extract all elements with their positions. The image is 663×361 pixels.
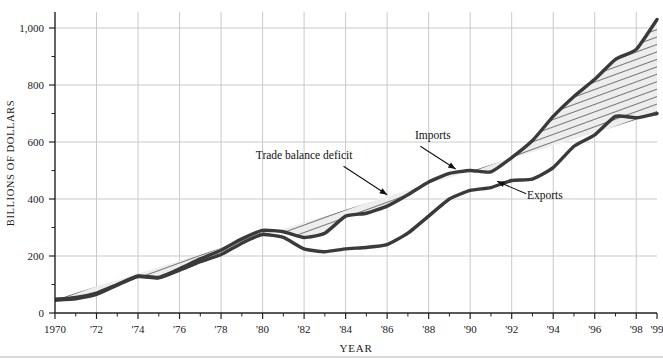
- x-tick-label: '72: [90, 323, 103, 335]
- y-tick-label: 400: [28, 193, 45, 205]
- x-tick-label: '92: [505, 323, 518, 335]
- y-tick-label: 800: [28, 79, 45, 91]
- x-tick-label: '82: [298, 323, 311, 335]
- x-tick-label: '96: [588, 323, 601, 335]
- x-tick-label: '84: [339, 323, 352, 335]
- x-tick-label: '78: [215, 323, 228, 335]
- x-tick-label: 1970: [44, 323, 67, 335]
- y-axis-title: BILLIONS OF DOLLARS: [5, 100, 16, 226]
- x-tick-label: '80: [256, 323, 269, 335]
- x-tick-label: '90: [464, 323, 477, 335]
- imports-annotation: Imports: [415, 129, 451, 142]
- y-tick-label: 1,000: [19, 22, 44, 34]
- chart-canvas: 02004006008001,000 1970'72'74'76'78'80'8…: [0, 0, 663, 361]
- trade-balance-chart: 02004006008001,000 1970'72'74'76'78'80'8…: [0, 0, 663, 361]
- x-tick-label: '94: [547, 323, 560, 335]
- trade-balance-annotation: Trade balance deficit: [256, 149, 353, 161]
- x-tick-label: '76: [173, 323, 186, 335]
- y-tick-label: 600: [28, 136, 45, 148]
- y-tick-label: 200: [28, 250, 45, 262]
- x-tick-label: '88: [422, 323, 435, 335]
- x-tick-label: '98: [630, 323, 643, 335]
- y-tick-label: 0: [39, 307, 45, 319]
- x-tick-label: '99: [651, 323, 663, 335]
- chart-background: [0, 0, 663, 361]
- x-tick-label: '86: [381, 323, 394, 335]
- exports-annotation: Exports: [527, 189, 563, 202]
- x-axis-title: YEAR: [339, 342, 372, 354]
- x-tick-label: '74: [132, 323, 145, 335]
